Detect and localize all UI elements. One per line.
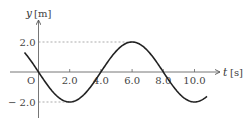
x-axis-label: t — [223, 66, 228, 78]
y-axis-label: y — [25, 7, 33, 19]
x-tick-label: 10.0 — [183, 75, 205, 86]
y-tick-label: 2.0 — [20, 37, 36, 48]
y-axis-unit: [m] — [34, 8, 51, 19]
x-tick-label: 2.0 — [62, 75, 78, 86]
y-tick-label: − 2.0 — [8, 97, 35, 108]
wave-graph: 2.04.06.08.010.0 2.0− 2.0 O y [m] t [s] — [0, 0, 250, 125]
x-axis-unit: [s] — [230, 67, 243, 78]
x-tick-label: 6.0 — [124, 75, 140, 86]
origin-label: O — [27, 75, 35, 86]
